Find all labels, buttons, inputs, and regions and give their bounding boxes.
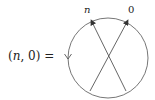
- strand-to-zero: [90, 22, 127, 91]
- chord-diagram: [0, 0, 155, 100]
